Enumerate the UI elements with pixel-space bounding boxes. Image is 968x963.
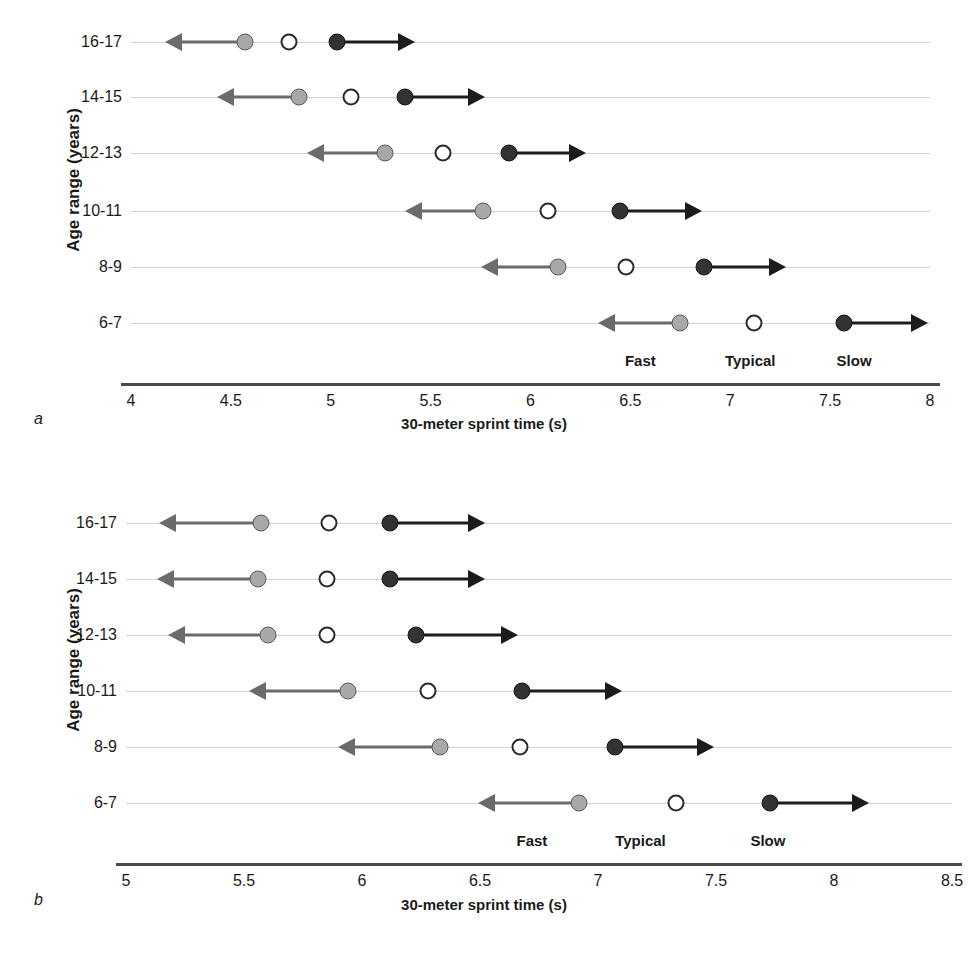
band-label-fast: Fast bbox=[516, 832, 547, 849]
category-label: 14-15 bbox=[40, 88, 122, 106]
slow-marker bbox=[328, 34, 345, 51]
typical-marker bbox=[667, 795, 684, 812]
slow-marker bbox=[762, 795, 779, 812]
fast-arrow-shaft bbox=[417, 210, 483, 213]
x-axis-tick-label: 4.5 bbox=[220, 392, 242, 410]
slow-arrow-shaft bbox=[704, 266, 774, 269]
figure-container: Age range (years) 16-1714-1512-1310-118-… bbox=[0, 0, 968, 963]
category-label: 12-13 bbox=[40, 144, 122, 162]
category-label: 8-9 bbox=[40, 738, 117, 756]
slow-marker bbox=[606, 739, 623, 756]
x-axis-tick-label: 5 bbox=[326, 392, 335, 410]
fast-arrow-shaft bbox=[177, 41, 245, 44]
fast-arrow-shaft bbox=[171, 522, 260, 525]
panel-b-x-axis-title: 30-meter sprint time (s) bbox=[0, 896, 968, 913]
fast-marker bbox=[672, 315, 689, 332]
slow-arrow-head-icon bbox=[468, 88, 485, 106]
x-axis-tick-label: 6 bbox=[526, 392, 535, 410]
slow-arrow-head-icon bbox=[468, 570, 485, 588]
slow-arrow-head-icon bbox=[569, 144, 586, 162]
slow-arrow-head-icon bbox=[769, 258, 786, 276]
slow-arrow-head-icon bbox=[911, 314, 928, 332]
panel-a-plot-area: 16-1714-1512-1310-118-96-7FastTypicalSlo… bbox=[0, 0, 968, 443]
fast-arrow-shaft bbox=[169, 578, 258, 581]
row-baseline bbox=[131, 211, 930, 212]
fast-arrow-head-icon bbox=[249, 682, 266, 700]
slow-arrow-head-icon bbox=[697, 738, 714, 756]
slow-arrow-head-icon bbox=[501, 626, 518, 644]
fast-marker bbox=[290, 89, 307, 106]
fast-marker bbox=[376, 145, 393, 162]
slow-arrow-head-icon bbox=[398, 33, 415, 51]
typical-marker bbox=[434, 145, 451, 162]
fast-arrow-shaft bbox=[229, 96, 299, 99]
slow-marker bbox=[696, 259, 713, 276]
fast-arrow-head-icon bbox=[481, 258, 498, 276]
x-axis-line bbox=[116, 863, 962, 866]
slow-marker bbox=[836, 315, 853, 332]
fast-arrow-shaft bbox=[180, 634, 267, 637]
category-label: 8-9 bbox=[40, 258, 122, 276]
x-axis-tick-label: 7 bbox=[594, 872, 603, 890]
x-axis-tick-label: 5 bbox=[122, 872, 131, 890]
slow-arrow-head-icon bbox=[685, 202, 702, 220]
band-label-typical: Typical bbox=[615, 832, 666, 849]
slow-marker bbox=[500, 145, 517, 162]
fast-marker bbox=[550, 259, 567, 276]
category-label: 6-7 bbox=[40, 314, 122, 332]
typical-marker bbox=[320, 515, 337, 532]
fast-arrow-shaft bbox=[350, 746, 439, 749]
category-label: 16-17 bbox=[40, 33, 122, 51]
row-baseline bbox=[126, 747, 952, 748]
x-axis-tick-label: 5.5 bbox=[420, 392, 442, 410]
fast-arrow-head-icon bbox=[598, 314, 615, 332]
x-axis-tick-label: 8.5 bbox=[941, 872, 963, 890]
panel-a-x-axis-title: 30-meter sprint time (s) bbox=[0, 415, 968, 432]
typical-marker bbox=[618, 259, 635, 276]
fast-marker bbox=[339, 683, 356, 700]
x-axis-tick-label: 5.5 bbox=[233, 872, 255, 890]
fast-arrow-shaft bbox=[493, 266, 559, 269]
panel-b-plot-area: 16-1714-1512-1310-118-96-7FastTypicalSlo… bbox=[0, 480, 968, 923]
row-baseline bbox=[131, 323, 930, 324]
slow-arrow-shaft bbox=[390, 522, 472, 525]
slow-arrow-shaft bbox=[509, 152, 575, 155]
slow-arrow-shaft bbox=[522, 690, 609, 693]
slow-arrow-shaft bbox=[416, 634, 505, 637]
slow-arrow-head-icon bbox=[468, 514, 485, 532]
fast-arrow-head-icon bbox=[405, 202, 422, 220]
fast-arrow-head-icon bbox=[159, 514, 176, 532]
slow-arrow-shaft bbox=[390, 578, 472, 581]
slow-arrow-shaft bbox=[770, 802, 857, 805]
slow-arrow-shaft bbox=[844, 322, 916, 325]
category-label: 14-15 bbox=[40, 570, 117, 588]
typical-marker bbox=[420, 683, 437, 700]
band-label-fast: Fast bbox=[625, 352, 656, 369]
typical-marker bbox=[540, 203, 557, 220]
typical-marker bbox=[746, 315, 763, 332]
x-axis-tick-label: 7.5 bbox=[819, 392, 841, 410]
slow-marker bbox=[382, 515, 399, 532]
fast-marker bbox=[252, 515, 269, 532]
x-axis-tick-label: 4 bbox=[127, 392, 136, 410]
panel-a-letter: a bbox=[34, 410, 43, 428]
panel-a: Age range (years) 16-1714-1512-1310-118-… bbox=[0, 0, 968, 470]
typical-marker bbox=[512, 739, 529, 756]
fast-arrow-head-icon bbox=[157, 570, 174, 588]
x-axis-tick-label: 7 bbox=[726, 392, 735, 410]
category-label: 16-17 bbox=[40, 514, 117, 532]
slow-arrow-head-icon bbox=[852, 794, 869, 812]
typical-marker bbox=[318, 627, 335, 644]
fast-arrow-head-icon bbox=[168, 626, 185, 644]
slow-marker bbox=[514, 683, 531, 700]
fast-arrow-head-icon bbox=[217, 88, 234, 106]
band-label-slow: Slow bbox=[837, 352, 872, 369]
slow-marker bbox=[612, 203, 629, 220]
panel-b-letter: b bbox=[34, 891, 43, 909]
fast-arrow-head-icon bbox=[307, 144, 324, 162]
x-axis-tick-label: 6.5 bbox=[469, 872, 491, 890]
fast-marker bbox=[571, 795, 588, 812]
fast-arrow-shaft bbox=[319, 152, 385, 155]
fast-arrow-head-icon bbox=[338, 738, 355, 756]
fast-arrow-head-icon bbox=[165, 33, 182, 51]
